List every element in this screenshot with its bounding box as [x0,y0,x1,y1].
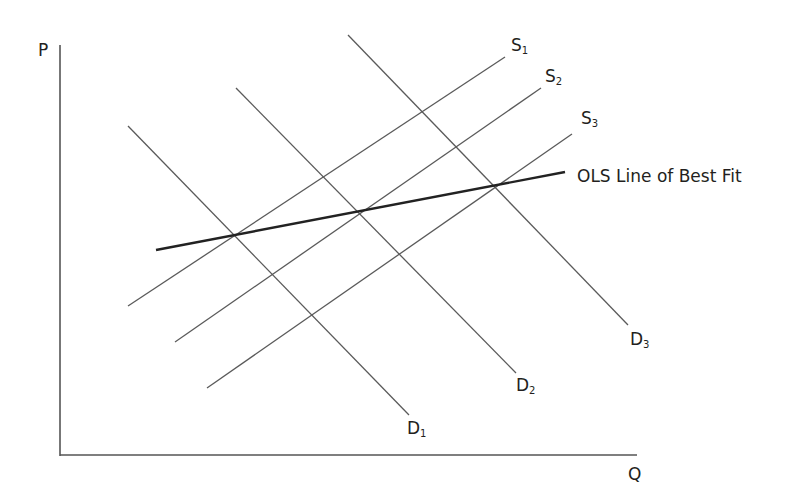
supply-curve-s1 [128,57,505,306]
supply-curve-s3 [207,134,572,388]
ols-label: OLS Line of Best Fit [577,168,742,185]
ols-best-fit-line [156,172,565,250]
demand-curve-d1 [128,126,409,415]
x-axis-label: Q [628,466,641,483]
d3-label: D3 [630,331,649,350]
d2-label: D2 [516,377,535,396]
supply-demand-diagram [0,0,787,503]
supply-curve-s2 [175,88,541,342]
d1-label: D1 [407,420,426,439]
demand-curve-d2 [236,88,516,373]
s1-label: S1 [511,37,528,56]
y-axis-label: P [38,42,48,59]
s2-label: S2 [545,68,562,87]
s3-label: S3 [581,110,598,129]
